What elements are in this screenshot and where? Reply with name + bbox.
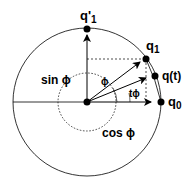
label-q0: q0 xyxy=(168,94,182,111)
point-q1 xyxy=(143,56,150,63)
origin-point xyxy=(84,99,91,106)
point-q0 xyxy=(158,99,165,106)
label-sin-phi: sin ϕ xyxy=(41,73,71,87)
label-cos-phi: cos ϕ xyxy=(102,126,135,140)
label-q1: q1 xyxy=(146,38,160,55)
point-q1-prime xyxy=(84,26,91,33)
label-phi: ϕ xyxy=(101,76,109,87)
label-q1-prime: q'1 xyxy=(80,8,97,25)
label-qt: q(t) xyxy=(162,69,181,83)
arc-q1-q0 xyxy=(146,59,161,102)
label-t-phi: tϕ xyxy=(129,88,140,99)
slerp-diagram: q'1 q1 q(t) q0 sin ϕ cos ϕ ϕ tϕ xyxy=(0,0,191,179)
point-qt xyxy=(152,73,159,80)
